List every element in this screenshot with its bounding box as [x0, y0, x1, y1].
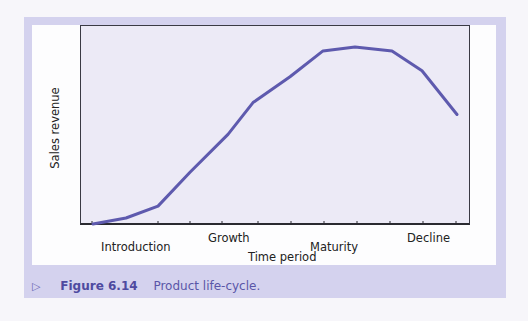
figure-caption: ▷ Figure 6.14 Product life-cycle. — [32, 279, 260, 293]
chart-svg — [0, 0, 528, 321]
y-axis-label: Sales revenue — [48, 87, 62, 168]
stage-label-maturity: Maturity — [310, 240, 358, 254]
stage-label-growth: Growth — [208, 231, 250, 245]
x-axis-label: Time period — [248, 250, 316, 264]
caption-arrow-icon: ▷ — [32, 280, 40, 293]
x-axis-ticks — [92, 221, 456, 225]
stage-label-introduction: Introduction — [101, 240, 171, 254]
stage-label-decline: Decline — [407, 231, 450, 245]
figure-title: Product life-cycle. — [153, 279, 260, 293]
figure-number: Figure 6.14 — [60, 279, 137, 293]
sales-curve — [93, 47, 457, 224]
